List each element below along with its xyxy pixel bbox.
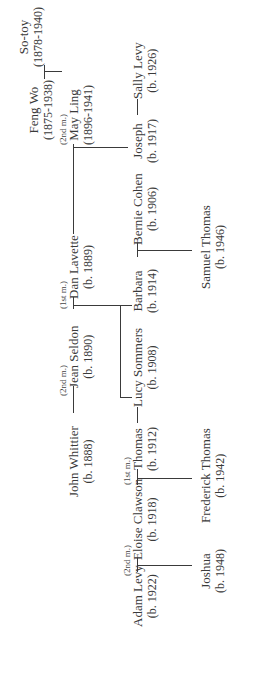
person-dates: (b. 1908) — [145, 328, 160, 407]
marriage-line-dan-may — [73, 144, 74, 234]
person-name: Samuel Thomas — [198, 205, 213, 289]
person-dates: (b. 1912) — [145, 427, 160, 471]
person-dates: (b. 1948) — [213, 549, 228, 593]
person-name: Lucy Sommers — [130, 328, 145, 407]
person-eloise-clawson: Eloise Clawson (b. 1918) — [130, 479, 160, 560]
person-lucy-sommers: Lucy Sommers (b. 1908) — [130, 328, 160, 407]
person-dates: (b. 1890) — [81, 326, 96, 388]
person-bernie-cohen: Bernie Cohen (b. 1906) — [130, 173, 160, 245]
person-sally-levy: Sally Levy (b. 1926) — [130, 42, 160, 99]
marriage-line-feng-sotoy — [44, 65, 45, 79]
marriage-line-john-jean — [73, 386, 74, 413]
person-name: Dan Lavette — [66, 235, 81, 299]
person-name: Jean Seldon — [66, 326, 81, 388]
marriage-line-dan-jean — [73, 297, 74, 309]
sibling-line-barbara-thomas — [120, 305, 121, 398]
family-tree-diagram: Feng Wo (1875-1938) So-toy (1878-1940) M… — [0, 0, 256, 693]
person-dates: (b. 1906) — [145, 173, 160, 245]
person-name: Frederick Thomas — [198, 428, 213, 523]
person-frederick-thomas: Frederick Thomas (b. 1942) — [198, 428, 228, 523]
person-name: May Ling — [66, 85, 81, 145]
person-dates: (1878-1940) — [31, 7, 46, 67]
marriage-label: (2nd m.) — [58, 365, 68, 396]
descent-line-joseph — [73, 147, 128, 148]
person-so-toy: So-toy (1878-1940) — [16, 7, 46, 67]
person-samuel-thomas: Samuel Thomas (b. 1946) — [198, 205, 228, 289]
marriage-line-joseph-sally — [137, 99, 138, 115]
person-dates: (b. 1889) — [81, 235, 96, 299]
marriage-line-thomas-lucy — [137, 407, 138, 423]
person-dan-lavette: Dan Lavette (b. 1889) — [66, 235, 96, 299]
person-dates: (1896-1941) — [81, 85, 96, 145]
marriage-label: (1st m.) — [58, 281, 68, 309]
person-dates: (b. 1918) — [145, 479, 160, 560]
person-barbara: Barbara (b. 1914) — [130, 269, 160, 313]
person-dates: (b. 1922) — [145, 565, 160, 627]
person-dates: (b. 1888) — [81, 426, 96, 497]
person-jean-seldon: Jean Seldon (b. 1890) — [66, 326, 96, 388]
person-dates: (b. 1926) — [145, 42, 160, 99]
descent-line-samuel — [137, 250, 192, 251]
person-name: Bernie Cohen — [130, 173, 145, 245]
person-name: Eloise Clawson — [130, 479, 145, 560]
person-joseph: Joseph (b. 1917) — [130, 119, 160, 163]
person-name: Sally Levy — [130, 42, 145, 99]
person-name: Thomas — [130, 427, 145, 471]
person-joshua: Joshua (b. 1948) — [198, 549, 228, 593]
person-dates: (b. 1942) — [213, 428, 228, 523]
person-adam-levy: Adam Levy (b. 1922) — [130, 565, 160, 627]
person-john-whittier: John Whittier (b. 1888) — [66, 426, 96, 497]
person-name: Joseph — [130, 119, 145, 163]
marriage-label: (2nd m.) — [58, 114, 68, 145]
person-name: Feng Wo — [26, 80, 41, 140]
descent-line-dan-jean — [73, 305, 121, 306]
person-name: John Whittier — [66, 426, 81, 497]
person-dates: (b. 1914) — [145, 269, 160, 313]
descent-line-may-ling — [44, 71, 62, 72]
person-name: Adam Levy — [130, 565, 145, 627]
person-name: Barbara — [130, 269, 145, 313]
person-thomas: Thomas (b. 1912) — [130, 427, 160, 471]
person-dates: (b. 1946) — [213, 205, 228, 289]
person-dates: (b. 1917) — [145, 119, 160, 163]
person-name: Joshua — [198, 549, 213, 593]
person-feng-wo: Feng Wo (1875-1938) — [26, 80, 56, 140]
person-name: So-toy — [16, 7, 31, 67]
person-dates: (1875-1938) — [41, 80, 56, 140]
person-may-ling: May Ling (1896-1941) — [66, 85, 96, 145]
